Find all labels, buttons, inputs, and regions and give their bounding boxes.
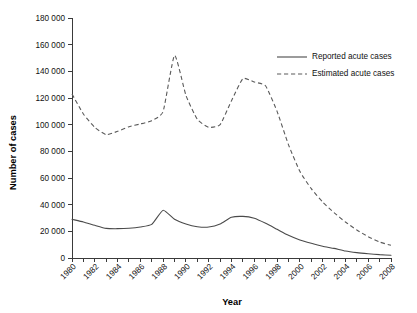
y-axis-tick-label: 20 000 [40, 227, 65, 236]
x-axis-tick-label: 2004 [332, 262, 352, 282]
y-axis-tick-label: 120 000 [35, 94, 65, 103]
x-axis-tick-label: 1984 [104, 262, 124, 282]
y-axis-title: Number of cases [8, 115, 18, 190]
x-axis-tick-label: 1990 [173, 262, 193, 282]
y-axis-tick-label: 60 000 [40, 174, 65, 183]
x-axis-tick-label: 1980 [59, 262, 79, 282]
y-axis-tick-label: 180 000 [35, 14, 65, 23]
x-axis-tick-label: 1996 [241, 262, 261, 282]
x-axis-tick-label: 1982 [81, 262, 101, 282]
chart-legend: Reported acute casesEstimated acute case… [277, 52, 394, 78]
x-axis-tick-label: 1988 [150, 262, 170, 282]
x-axis-tick-label: 2002 [309, 262, 329, 282]
data-series-group [72, 55, 391, 255]
x-axis-tick-label: 1994 [218, 262, 238, 282]
series-line-1 [72, 210, 391, 255]
x-axis-tick-label: 1998 [264, 262, 284, 282]
x-axis-tick-label: 2008 [378, 262, 398, 282]
chart-figure: 020 00040 00060 00080 000100 000120 0001… [0, 0, 417, 313]
y-axis-tick-label: 80 000 [40, 147, 65, 156]
x-axis-title: Year [222, 297, 242, 307]
x-axis-tick-label: 1986 [127, 262, 147, 282]
x-axis-tick-label: 2006 [355, 262, 375, 282]
x-axis-tick-label: 2000 [287, 262, 307, 282]
y-axis-tick-label: 0 [60, 254, 65, 263]
y-axis-tick-label: 160 000 [35, 41, 65, 50]
x-axis-ticks: 1980198219841986198819901992199419961998… [59, 258, 398, 281]
legend-label: Estimated acute cases [312, 69, 394, 78]
y-axis-tick-label: 40 000 [40, 201, 65, 210]
x-axis-tick-label: 1992 [195, 262, 215, 282]
y-axis-tick-label: 140 000 [35, 67, 65, 76]
legend-label: Reported acute cases [312, 52, 392, 61]
y-axis-ticks: 020 00040 00060 00080 000100 000120 0001… [35, 14, 72, 263]
line-chart: 020 00040 00060 00080 000100 000120 0001… [0, 0, 417, 313]
y-axis-tick-label: 100 000 [35, 121, 65, 130]
